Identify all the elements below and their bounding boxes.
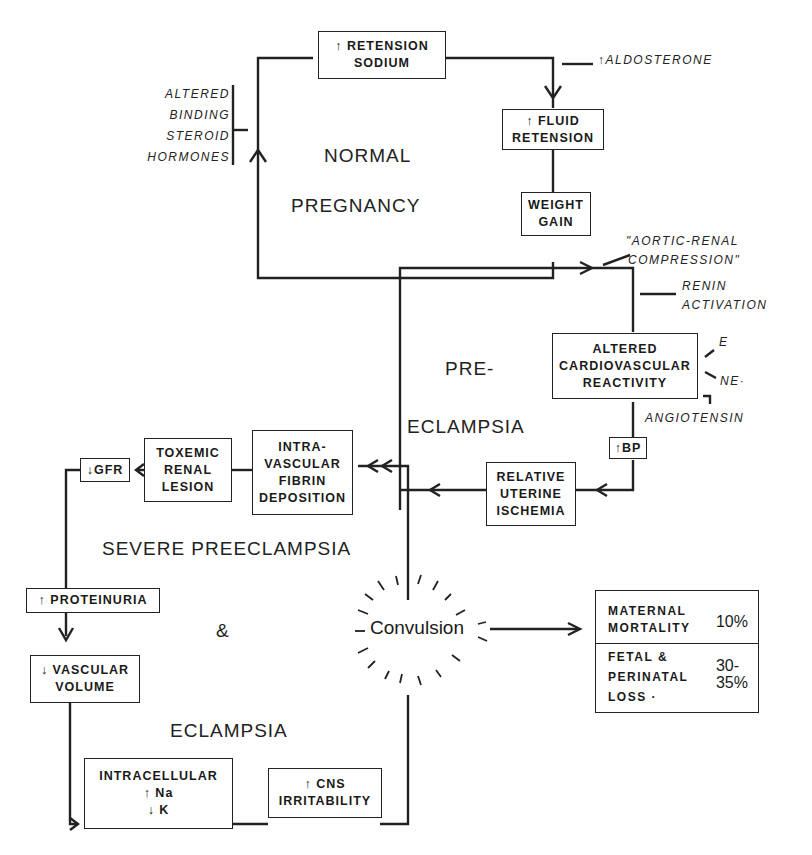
region-label: ECLAMPSIA [407, 398, 525, 456]
note-e: E [719, 333, 729, 352]
box-fibrin-deposition: INTRA- VASCULAR FIBRIN DEPOSITION [252, 430, 353, 515]
region-severe-amp: & [216, 620, 230, 642]
box-text: FIBRIN [279, 473, 327, 490]
note-text: HORMONES [130, 147, 230, 168]
box-vascular-volume: ↓ VASCULAR VOLUME [30, 655, 140, 703]
region-severe-title: SEVERE PREECLAMPSIA [102, 538, 351, 560]
box-text: VASCULAR [264, 456, 341, 473]
box-text: TOXEMIC [156, 445, 220, 462]
box-text: SODIUM [354, 55, 410, 72]
box-text: CARDIOVASCULAR [559, 358, 691, 375]
region-severe-eclampsia: ECLAMPSIA [170, 720, 288, 742]
box-text: ↓ VASCULAR [41, 662, 129, 679]
label-text: FETAL & [608, 647, 688, 667]
box-text: INTRACELLULAR [99, 768, 218, 785]
region-normal-pregnancy: NORMAL PREGNANCY [315, 131, 420, 231]
box-toxemic-renal-lesion: TOXEMIC RENAL LESION [144, 438, 232, 502]
box-text: ↓ K [148, 802, 170, 819]
box-proteinuria: ↑ PROTEINURIA [26, 588, 160, 613]
label-text: LOSS · [608, 687, 688, 707]
box-text: RENAL [164, 462, 212, 479]
note-ne: NE· [720, 372, 745, 391]
note-text: COMPRESSION" [628, 251, 740, 270]
value-text: 30- [716, 657, 748, 674]
box-text: DEPOSITION [259, 490, 346, 507]
label-text: MATERNAL [608, 603, 691, 620]
box-text: IRRITABILITY [279, 793, 371, 810]
region-pre-eclampsia: PRE- ECLAMPSIA [407, 340, 525, 456]
box-text: ↑ Na [144, 785, 174, 802]
note-text: "AORTIC-RENAL [626, 232, 740, 251]
label-text: MORTALITY [608, 620, 691, 637]
box-bp: ↑BP [609, 437, 647, 459]
box-fluid-retension: ↑ FLUID RETENSION [502, 109, 604, 150]
box-weight-gain: WEIGHT GAIN [521, 192, 591, 236]
fetal-value: 30- 35% [716, 657, 748, 691]
region-label: PRE- [445, 340, 525, 398]
note-steroid-hormones: ALTERED BINDING STEROID HORMONES [130, 84, 230, 168]
note-aldosterone: ↑ALDOSTERONE [598, 51, 713, 70]
box-text: ↑ RETENSION [335, 38, 429, 55]
box-gfr: ↓GFR [80, 458, 130, 482]
box-text: WEIGHT [528, 197, 584, 214]
region-label: PREGNANCY [291, 181, 420, 231]
box-uterine-ischemia: RELATIVE UTERINE ISCHEMIA [486, 462, 576, 526]
outcome-row-fetal: FETAL & PERINATAL LOSS · 30- 35% [596, 643, 758, 712]
convulsion-label: Convulsion [370, 617, 464, 639]
box-text: VOLUME [55, 679, 114, 696]
box-text: ALTERED [592, 341, 657, 358]
outcomes-table: MATERNAL MORTALITY 10% FETAL & PERINATAL… [595, 590, 759, 713]
note-text: ALTERED [130, 84, 230, 105]
box-text: INTRA- [278, 439, 326, 456]
box-text: RELATIVE [497, 469, 566, 486]
box-text: REACTIVITY [583, 375, 667, 392]
note-renin-activation: RENIN ACTIVATION [682, 277, 767, 315]
note-aortic-renal-compression: "AORTIC-RENAL COMPRESSION" [626, 232, 740, 270]
note-text: RENIN [682, 277, 767, 296]
fetal-label: FETAL & PERINATAL LOSS · [608, 647, 688, 707]
box-intracellular: INTRACELLULAR ↑ Na ↓ K [84, 758, 233, 829]
box-text: GAIN [538, 214, 573, 231]
box-text: ↑ CNS [304, 776, 345, 793]
box-text: UTERINE [500, 486, 562, 503]
box-retension-sodium: ↑ RETENSION SODIUM [318, 31, 446, 79]
value-text: 35% [716, 674, 748, 691]
region-label: NORMAL [315, 131, 420, 181]
outcome-row-maternal: MATERNAL MORTALITY 10% [596, 591, 758, 644]
box-altered-cardiovascular: ALTERED CARDIOVASCULAR REACTIVITY [552, 333, 698, 399]
label-text: PERINATAL [608, 667, 688, 687]
note-angiotensin: ANGIOTENSIN [645, 409, 744, 428]
maternal-value: 10% [716, 613, 748, 630]
box-text: ISCHEMIA [496, 503, 565, 520]
box-text: ↑ FLUID [526, 113, 580, 130]
note-text: ACTIVATION [682, 296, 767, 315]
box-cns-irritability: ↑ CNS IRRITABILITY [268, 768, 382, 818]
box-text: RETENSION [512, 130, 594, 147]
note-text: BINDING [130, 105, 230, 126]
note-text: STEROID [130, 126, 230, 147]
box-text: LESION [162, 479, 215, 496]
maternal-label: MATERNAL MORTALITY [608, 603, 691, 637]
